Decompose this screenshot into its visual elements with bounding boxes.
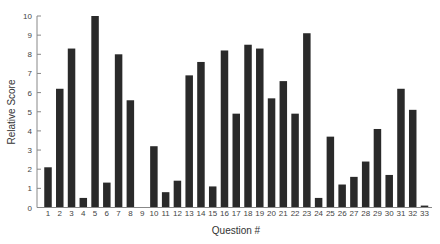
x-tick-label: 23 <box>302 209 311 218</box>
x-axis: 1234567891011121314151617181920212223242… <box>37 208 432 219</box>
y-tick-label: 3 <box>28 146 33 155</box>
bar-chart: 012345678910 123456789101112131415161718… <box>0 0 440 244</box>
x-tick-label: 4 <box>81 209 86 218</box>
x-tick-label: 16 <box>220 209 229 218</box>
x-tick-label: 15 <box>208 209 217 218</box>
x-tick-label: 10 <box>149 209 158 218</box>
bars <box>44 16 428 208</box>
bar-question-21 <box>280 81 288 207</box>
y-tick-label: 10 <box>23 12 32 21</box>
bar-question-27 <box>350 177 358 208</box>
x-tick-label: 28 <box>361 209 370 218</box>
y-tick-label: 1 <box>28 184 33 193</box>
x-tick-label: 11 <box>162 209 171 218</box>
x-tick-label: 29 <box>373 209 382 218</box>
bar-question-1 <box>44 167 52 207</box>
y-tick-label: 8 <box>28 50 33 59</box>
bar-question-29 <box>374 129 382 208</box>
x-tick-label: 32 <box>408 209 417 218</box>
bar-question-3 <box>68 49 76 208</box>
bar-question-28 <box>362 162 370 208</box>
x-tick-label: 33 <box>420 209 429 218</box>
x-tick-label: 30 <box>385 209 394 218</box>
bar-question-16 <box>221 50 229 207</box>
x-tick-label: 3 <box>69 209 74 218</box>
y-axis: 012345678910 <box>23 12 41 213</box>
bar-question-26 <box>338 185 346 208</box>
bar-question-22 <box>291 114 299 208</box>
y-tick-label: 5 <box>28 108 33 117</box>
x-tick-label: 2 <box>58 209 63 218</box>
bar-question-20 <box>268 98 276 207</box>
x-tick-label: 14 <box>197 209 206 218</box>
bar-question-15 <box>209 186 217 207</box>
bar-question-23 <box>303 33 311 207</box>
y-axis-title: Relative Score <box>6 79 17 144</box>
x-tick-label: 21 <box>279 209 288 218</box>
bar-question-7 <box>115 54 123 207</box>
y-tick-label: 2 <box>28 165 33 174</box>
x-tick-label: 27 <box>349 209 358 218</box>
bar-question-4 <box>80 198 88 208</box>
x-tick-label: 6 <box>105 209 110 218</box>
bar-question-2 <box>56 89 64 208</box>
bar-question-25 <box>327 137 335 208</box>
bar-question-13 <box>185 75 193 207</box>
x-tick-label: 13 <box>185 209 194 218</box>
bar-question-19 <box>256 49 264 208</box>
x-tick-label: 26 <box>338 209 347 218</box>
x-axis-title: Question # <box>212 225 261 236</box>
bar-question-17 <box>233 114 241 208</box>
bar-question-24 <box>315 198 323 208</box>
y-tick-label: 4 <box>28 127 33 136</box>
bar-question-5 <box>91 16 99 208</box>
bar-question-12 <box>174 181 182 208</box>
x-tick-label: 17 <box>232 209 241 218</box>
y-tick-label: 9 <box>28 31 33 40</box>
x-tick-label: 18 <box>244 209 253 218</box>
x-tick-label: 25 <box>326 209 335 218</box>
x-tick-label: 8 <box>128 209 133 218</box>
x-tick-label: 12 <box>173 209 182 218</box>
x-tick-label: 9 <box>140 209 145 218</box>
bar-question-30 <box>385 175 393 208</box>
bar-question-10 <box>150 146 158 207</box>
x-tick-label: 22 <box>291 209 300 218</box>
bar-question-11 <box>162 192 170 207</box>
bar-question-6 <box>103 183 111 208</box>
x-tick-label: 20 <box>267 209 276 218</box>
x-tick-label: 31 <box>397 209 406 218</box>
bar-question-32 <box>409 110 417 208</box>
y-tick-label: 0 <box>28 204 33 213</box>
x-tick-label: 19 <box>255 209 264 218</box>
bar-question-14 <box>197 62 205 208</box>
bar-question-18 <box>244 45 252 208</box>
x-tick-label: 1 <box>46 209 51 218</box>
x-tick-label: 24 <box>314 209 323 218</box>
y-tick-label: 6 <box>28 89 33 98</box>
x-tick-label: 7 <box>116 209 121 218</box>
x-tick-label: 5 <box>93 209 98 218</box>
y-tick-label: 7 <box>28 69 33 78</box>
bar-question-31 <box>397 89 405 208</box>
bar-question-8 <box>127 100 135 207</box>
